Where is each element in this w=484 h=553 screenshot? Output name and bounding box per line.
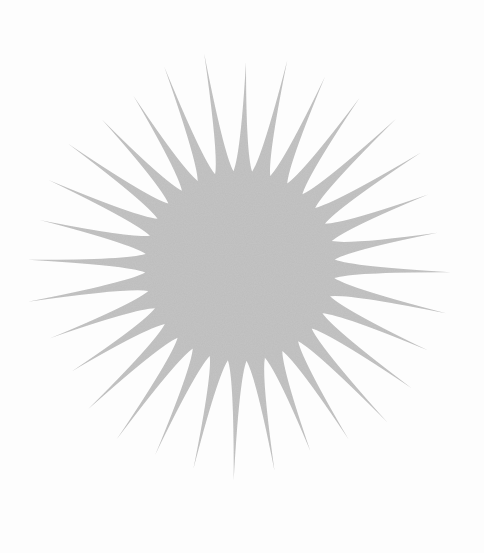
illustration-canvas: Gray starburst (sun) illustration on a n… — [0, 0, 484, 553]
starburst-sun-icon — [0, 0, 484, 553]
starburst-shape — [28, 53, 451, 480]
